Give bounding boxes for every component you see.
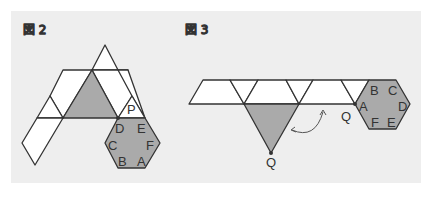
fig3-hex-label: B (370, 83, 379, 98)
fig3-shaded-triangle (244, 104, 299, 153)
diagram-canvas: 図 2 P D E F A B C 図 3 (0, 0, 432, 197)
fig3-hex-label: C (388, 83, 397, 98)
figure-3-title: 図 3 (185, 23, 208, 37)
fig2-label-p: P (127, 102, 136, 117)
arrow-head-icon (291, 127, 296, 132)
fig2-hex-label: B (118, 154, 127, 169)
fig3-label-q: Q (341, 109, 351, 124)
fig2-hex-label: F (146, 138, 154, 153)
figure-2-title: 図 2 (23, 23, 46, 37)
fig3-hex-label: F (371, 115, 379, 130)
fig3-hex-label: E (387, 115, 396, 130)
fig2-hex-label: A (137, 154, 146, 169)
fig3-hex-label: A (359, 99, 368, 114)
fig3-point-q-dot (353, 102, 357, 106)
figure-2: 図 2 P D E F A B C (22, 23, 160, 169)
fig3-rotation-arrow (292, 112, 323, 133)
fig2-hex-label: D (115, 121, 124, 136)
fig2-top-triangle (92, 45, 118, 70)
fig2-point-dot (116, 116, 120, 120)
figure-3: 図 3 Q Q B C D E F A (185, 23, 410, 170)
fig2-hex-label: C (108, 138, 117, 153)
fig3-hex-label: D (398, 99, 407, 114)
fig2-lower-parallelogram (22, 118, 63, 165)
fig2-hex-label: E (137, 121, 146, 136)
fig3-label-q-triangle: Q (266, 155, 276, 170)
